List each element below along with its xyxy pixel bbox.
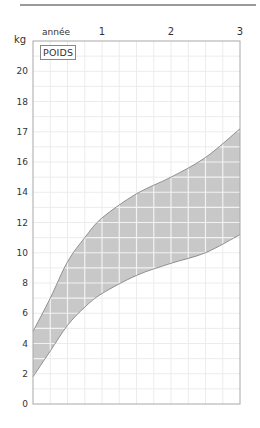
chart-title: POIDS <box>40 45 76 60</box>
chart-plot-area <box>0 0 260 428</box>
